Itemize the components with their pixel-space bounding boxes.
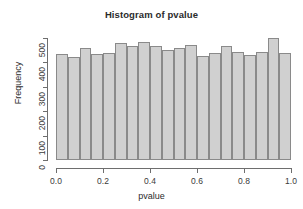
histogram-bar — [56, 54, 68, 160]
histogram-bar — [221, 46, 233, 160]
x-axis-tick — [291, 168, 292, 173]
y-axis-line — [47, 38, 48, 160]
plot-panel — [56, 38, 291, 160]
histogram-bar — [268, 38, 280, 160]
chart-title: Histogram of pvalue — [0, 9, 303, 20]
bar-baseline — [56, 159, 291, 160]
histogram-plot: Histogram of pvalue Frequency 0100200300… — [0, 0, 303, 209]
x-axis-tick-label: 0.4 — [130, 176, 170, 186]
histogram-bar — [91, 54, 103, 160]
y-axis-tick — [43, 38, 48, 39]
histogram-bar — [197, 56, 209, 160]
histogram-bar — [127, 46, 139, 160]
histogram-bar — [150, 46, 162, 160]
x-axis-tick — [150, 168, 151, 173]
histogram-bar — [68, 57, 80, 160]
histogram-bar — [185, 45, 197, 160]
histogram-bar — [232, 52, 244, 160]
x-axis-tick-label: 0.2 — [83, 176, 123, 186]
x-axis-tick — [56, 168, 57, 173]
x-axis-tick-label: 0.0 — [36, 176, 76, 186]
x-axis-tick — [103, 168, 104, 173]
x-axis-tick — [244, 168, 245, 173]
x-axis-tick-label: 1.0 — [271, 176, 303, 186]
histogram-bar — [279, 53, 291, 160]
histogram-bar — [103, 53, 115, 160]
histogram-bar — [138, 42, 150, 160]
histogram-bar — [256, 52, 268, 160]
histogram-bar — [115, 43, 127, 160]
y-axis-tick-label: 500 — [37, 43, 47, 83]
histogram-bars — [56, 38, 291, 160]
x-axis-title: pvalue — [0, 191, 303, 201]
x-axis-tick — [197, 168, 198, 173]
x-axis-tick-label: 0.8 — [224, 176, 264, 186]
x-axis-line — [56, 168, 291, 169]
histogram-bar — [209, 53, 221, 160]
histogram-bar — [162, 50, 174, 160]
histogram-bar — [80, 48, 92, 160]
histogram-bar — [244, 55, 256, 160]
histogram-bar — [174, 48, 186, 160]
x-axis-tick-label: 0.6 — [177, 176, 217, 186]
